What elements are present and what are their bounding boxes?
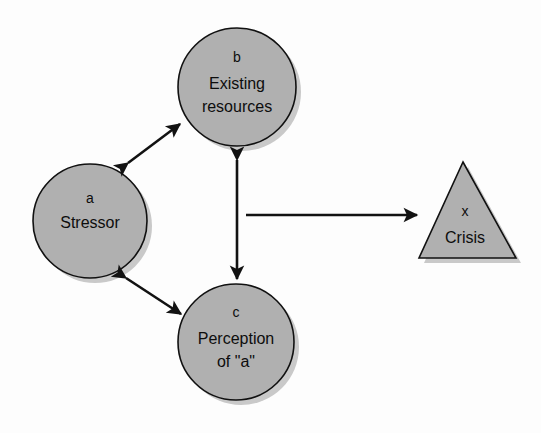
node-c-line-1: Perception <box>198 330 275 347</box>
node-c-line-2: of "a" <box>217 353 255 370</box>
node-x-key: x <box>462 203 469 219</box>
edge-a-c[interactable] <box>126 278 181 314</box>
node-b-key: b <box>233 49 241 65</box>
node-c[interactable]: c Perception of "a" <box>178 284 294 400</box>
node-a-key: a <box>86 190 94 206</box>
edge-a-b[interactable] <box>128 124 180 163</box>
node-b-line-1: Existing <box>209 75 265 92</box>
node-b[interactable]: b Existing resources <box>178 28 296 146</box>
node-a-line-1: Stressor <box>60 214 120 231</box>
node-x-line-1: Crisis <box>445 229 485 246</box>
diagram-canvas: a Stressor b Existing resources c Percep… <box>0 0 541 433</box>
node-b-line-2: resources <box>202 98 272 115</box>
edge-layer <box>126 124 417 314</box>
node-x[interactable]: x Crisis <box>419 162 516 258</box>
node-a[interactable]: a Stressor <box>33 164 147 278</box>
node-c-key: c <box>233 304 240 320</box>
diagram-svg: a Stressor b Existing resources c Percep… <box>0 0 541 433</box>
